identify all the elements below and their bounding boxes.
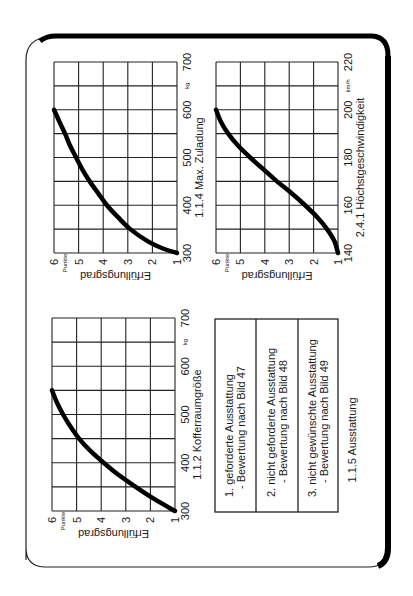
x-tick-label: 140 (342, 244, 354, 262)
x-tick-label: 600 (181, 101, 193, 119)
x-tick-label: 700 (179, 309, 191, 327)
document-page: 123456PunkteErfüllungsgrad30040050060070… (0, 0, 413, 596)
y-tick-label: 3 (122, 259, 134, 265)
series-line (52, 390, 175, 511)
ausstattung-table: 1. geforderte Ausstattung - Bewertung na… (215, 319, 358, 512)
x-unit-label: km/h (345, 79, 351, 92)
x-tick-label: 300 (181, 244, 193, 262)
chart-kofferraumgroesse: 123456PunkteErfüllungsgrad30040050060070… (46, 309, 203, 540)
chart-max-zuladung: 123456PunkteErfüllungsgrad30040050060070… (48, 53, 205, 282)
y-axis-label: Erfüllungsgrad (80, 270, 151, 282)
chart-title: 2.4.1 Höchstgeschwindigkeit (354, 98, 366, 237)
x-unit-label: kg (184, 83, 190, 89)
x-tick-label: 700 (181, 53, 193, 71)
y-tick-label: 4 (95, 517, 107, 523)
y-unit-label: Punkte (224, 253, 230, 272)
table-row-line1: 2. nicht geforderte Ausstattung (265, 348, 277, 497)
ausstattung-caption: 1.1.5 Ausstattung (346, 397, 358, 482)
chart-title: 1.1.4 Max. Zuladung (193, 117, 205, 217)
table-row-line2: - Bewertung nach Bild 49 (318, 360, 330, 483)
y-axis-label: Erfüllungsgrad (242, 270, 313, 282)
chart-title: 1.1.2 Kofferraumgröße (191, 369, 203, 479)
y-tick-label: 6 (48, 259, 60, 265)
y-tick-label: 4 (97, 259, 109, 265)
x-tick-label: 600 (179, 357, 191, 375)
y-unit-label: Punkte (62, 253, 68, 272)
y-tick-label: 3 (120, 517, 132, 523)
x-unit-label: kg (182, 339, 188, 345)
y-axis-label: Erfüllungsgrad (78, 528, 149, 540)
y-tick-label: 5 (73, 259, 85, 265)
y-tick-label: 4 (259, 259, 271, 265)
x-tick-label: 400 (181, 196, 193, 214)
table-row: 1. geforderte Ausstattung - Bewertung na… (223, 366, 247, 497)
chart-hoechstgeschwindigkeit: 123456PunkteErfüllungsgrad14016018020022… (210, 53, 366, 282)
y-tick-label: 5 (71, 517, 83, 523)
x-tick-label: 220 (342, 53, 354, 71)
x-tick-label: 400 (179, 454, 191, 472)
y-tick-label: 2 (146, 259, 158, 265)
y-unit-label: Punkte (60, 511, 66, 530)
y-tick-label: 3 (283, 259, 295, 265)
x-tick-label: 500 (181, 148, 193, 166)
table-row-line1: 3. nicht gewünschte Ausstattung (306, 339, 318, 497)
y-tick-label: 6 (210, 259, 222, 265)
x-tick-label: 160 (342, 196, 354, 214)
table-row-line1: 1. geforderte Ausstattung (223, 374, 235, 497)
y-tick-label: 2 (144, 517, 156, 523)
y-tick-label: 5 (234, 259, 246, 265)
y-tick-label: 6 (46, 517, 58, 523)
y-tick-label: 2 (308, 259, 320, 265)
table-row: 3. nicht gewünschte Ausstattung - Bewert… (306, 339, 330, 497)
x-tick-label: 180 (342, 148, 354, 166)
x-tick-label: 500 (179, 405, 191, 423)
card-border (26, 37, 388, 567)
table-row-line2: - Bewertung nach Bild 48 (277, 360, 289, 483)
table-row-line2: - Bewertung nach Bild 47 (235, 366, 247, 489)
table-row: 2. nicht geforderte Ausstattung - Bewert… (265, 348, 289, 497)
card-border-right-thick (378, 56, 388, 566)
x-tick-label: 200 (342, 101, 354, 119)
card-border-top-thick (40, 36, 388, 56)
x-tick-label: 300 (179, 502, 191, 520)
